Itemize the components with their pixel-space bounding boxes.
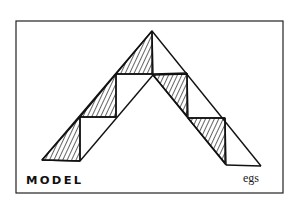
right-outer-edge [152,31,261,166]
left-base [42,160,80,161]
diagram-canvas: MODEL egs [0,0,302,203]
right-base [226,165,261,166]
model-caption: MODEL [26,175,83,186]
left-hatched-triangle-1 [42,117,80,161]
artist-signature: egs [243,171,259,186]
